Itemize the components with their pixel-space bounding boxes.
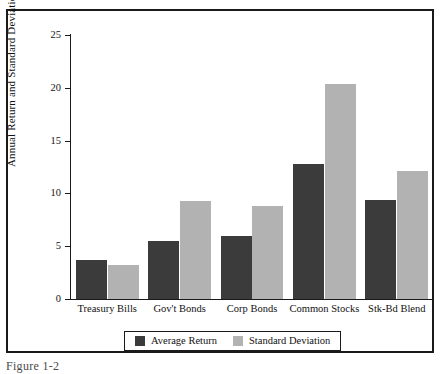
legend-entry-standard-deviation: Standard Deviation bbox=[233, 336, 330, 347]
legend-swatch-average-return bbox=[135, 336, 145, 346]
x-axis-label: Corp Bonds bbox=[216, 302, 288, 316]
bar-group bbox=[71, 35, 143, 299]
legend-label-standard-deviation: Standard Deviation bbox=[249, 336, 330, 347]
x-axis-label: Gov't Bonds bbox=[143, 302, 215, 316]
y-tick-mark bbox=[65, 299, 71, 300]
bar-average-return bbox=[365, 200, 396, 299]
bar-standard-deviation bbox=[252, 206, 283, 299]
y-tick-label: 10 bbox=[51, 188, 62, 199]
x-axis-label: Stk-Bd Blend bbox=[361, 302, 433, 316]
x-axis-line bbox=[70, 299, 433, 300]
legend-label-average-return: Average Return bbox=[151, 336, 217, 347]
y-tick-label: 20 bbox=[51, 83, 62, 94]
bar-group bbox=[361, 35, 433, 299]
y-tick-label: 25 bbox=[51, 30, 62, 41]
legend-entry-average-return: Average Return bbox=[135, 336, 217, 347]
x-axis-label: Treasury Bills bbox=[71, 302, 143, 316]
bar-group bbox=[216, 35, 288, 299]
x-axis-category-labels: Treasury BillsGov't BondsCorp BondsCommo… bbox=[71, 302, 433, 318]
legend-swatch-standard-deviation bbox=[233, 336, 243, 346]
x-axis-label: Common Stocks bbox=[288, 302, 360, 316]
bar-group bbox=[143, 35, 215, 299]
bar-standard-deviation bbox=[180, 201, 211, 299]
bar-average-return bbox=[76, 260, 107, 299]
y-tick-label: 15 bbox=[51, 135, 62, 146]
figure-caption: Figure 1-2 bbox=[6, 359, 59, 374]
bar-standard-deviation bbox=[108, 265, 139, 299]
y-axis-title: Annual Return and Standard Deviation (%) bbox=[5, 0, 17, 167]
chart-legend: Average Return Standard Deviation bbox=[124, 331, 341, 351]
y-tick-label: 5 bbox=[56, 241, 61, 252]
bar-series-layer bbox=[71, 35, 433, 299]
bar-group bbox=[288, 35, 360, 299]
figure-frame: Annual Return and Standard Deviation (%)… bbox=[6, 9, 434, 353]
y-tick-label: 0 bbox=[56, 294, 61, 305]
bar-average-return bbox=[148, 241, 179, 299]
bar-average-return bbox=[293, 164, 324, 299]
bar-standard-deviation bbox=[397, 171, 428, 299]
bar-average-return bbox=[221, 236, 252, 299]
bar-standard-deviation bbox=[325, 84, 356, 299]
